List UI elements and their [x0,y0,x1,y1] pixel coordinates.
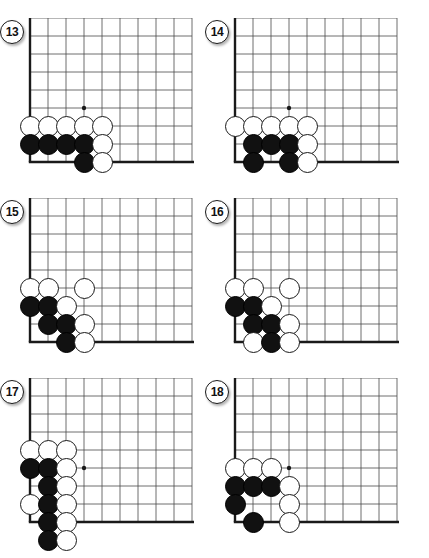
black-stone [243,512,264,533]
white-stone [279,512,300,533]
diagram-number-badge-15: 15 [0,200,24,224]
diagram-17: 17 [12,378,210,558]
diagram-14: 14 [217,18,415,198]
diagram-sheet: 131415161718 [0,0,429,558]
white-stone [279,278,300,299]
white-stone [297,152,318,173]
diagram-number-badge-14: 14 [205,20,229,44]
diagram-18: 18 [217,378,415,558]
white-stone [279,332,300,353]
diagram-number-badge-16: 16 [205,200,229,224]
diagram-13: 13 [12,18,210,198]
diagram-16: 16 [217,198,415,378]
white-stone [56,530,77,551]
white-stone [74,278,95,299]
black-stone [243,152,264,173]
diagram-number-badge-17: 17 [0,380,24,404]
diagram-15: 15 [12,198,210,378]
diagram-number-badge-18: 18 [205,380,229,404]
white-stone [92,152,113,173]
white-stone [74,332,95,353]
black-stone [225,494,246,515]
go-board [12,18,210,198]
diagram-number-badge-13: 13 [0,20,24,44]
